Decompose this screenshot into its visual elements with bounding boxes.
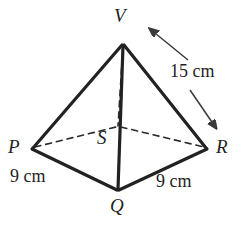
pyramid-diagram-figure: V P Q R S 15 cm 9 cm 9 cm	[0, 0, 249, 229]
pyramid-geometry-svg	[0, 0, 249, 229]
measurement-label-slant-edge: 15 cm	[170, 62, 215, 80]
vertex-label-r: R	[216, 137, 228, 156]
vertex-label-v: V	[114, 6, 126, 25]
measurement-label-base-edge-right: 9 cm	[156, 172, 192, 190]
arrow-to-R-icon	[190, 90, 216, 128]
edge-V-P-solid	[33, 45, 122, 148]
measurement-label-base-edge-left: 9 cm	[10, 167, 46, 185]
vertex-label-p: P	[8, 137, 20, 156]
vertex-label-q: Q	[110, 196, 124, 215]
arrow-to-V-icon	[150, 29, 188, 60]
vertex-label-s: S	[97, 128, 107, 147]
